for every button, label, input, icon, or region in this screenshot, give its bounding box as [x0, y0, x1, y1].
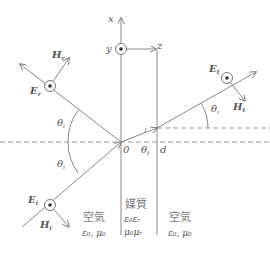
angle-arc-transmitted: [201, 103, 208, 128]
region-right-name: 空気: [169, 210, 191, 224]
slab-incidence-diagram: x y z Hr Er Ei Hi Et Ht θi θi θt θi 0 d …: [0, 0, 270, 255]
refracted-ray: [121, 128, 157, 142]
origin-label: 0: [123, 144, 130, 155]
incident-angle-label: θi: [57, 158, 65, 170]
incident-H-label: Hi: [39, 219, 52, 231]
region-middle-param1: ε₀εᵣ: [124, 214, 140, 224]
region-middle-param2: μ₀μᵣ: [124, 227, 142, 237]
reflected-H-label: Hr: [51, 49, 65, 61]
x-axis-label: x: [108, 13, 114, 24]
transmitted-ray: [157, 72, 256, 128]
region-left-name: 空気: [83, 210, 105, 224]
region-middle-name: 媒質: [125, 197, 147, 211]
reflected-ray: [20, 64, 121, 142]
reflected-angle-label: θi: [57, 117, 65, 129]
z-axis-label: z: [156, 40, 163, 51]
transmitted-angle-label: θi: [211, 103, 219, 115]
angle-arc-reflect-incident: [68, 109, 79, 173]
incident-E-label: Ei: [27, 194, 39, 206]
refracted-angle-label: θt: [141, 144, 150, 156]
region-left-params: ε₀, μ₀: [82, 228, 106, 238]
transmitted-H-label: Ht: [232, 101, 245, 113]
region-right-params: ε₀, μ₀: [168, 228, 192, 238]
incident-ray: [22, 142, 121, 227]
transmitted-E-label: Et: [208, 63, 220, 75]
thickness-d-label: d: [160, 144, 166, 155]
y-axis-label: y: [105, 43, 112, 54]
reflected-E-label: Er: [29, 85, 42, 97]
